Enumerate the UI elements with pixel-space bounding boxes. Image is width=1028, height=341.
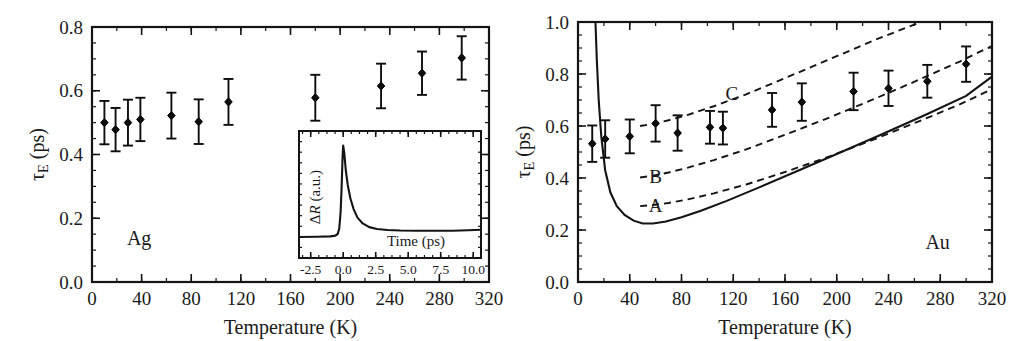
x-tick-label: 240 (874, 288, 903, 309)
data-marker-core (769, 107, 774, 112)
x-tick-label: 280 (926, 288, 955, 309)
ag-plot-svg: 040801201602002402803200.00.20.40.60.8Te… (0, 0, 514, 341)
series-0 (587, 46, 971, 161)
data-marker-core (851, 89, 856, 94)
y-tick-label: 0.0 (545, 272, 569, 293)
panel-au: 040801201602002402803200.00.20.40.60.81.… (514, 0, 1028, 341)
x-tick-label: 120 (227, 288, 256, 309)
panel-annotation-Au: Au (925, 231, 949, 253)
model-curve-A (640, 89, 992, 206)
x-tick-label: 40 (132, 288, 151, 309)
x-tick-label: 280 (425, 288, 454, 309)
x-tick-label: 200 (326, 288, 355, 309)
inset-x-axis-title: Time (ps) (387, 233, 445, 250)
y-tick-label: 0.6 (59, 80, 83, 101)
data-marker-core (378, 83, 383, 88)
inset-x-tick-label: 7.5 (432, 262, 449, 277)
data-marker-core (964, 62, 969, 67)
y-tick-label: 1.0 (545, 12, 569, 33)
y-tick-label: 0.8 (545, 64, 569, 85)
data-marker-core (169, 113, 174, 118)
y-tick-label: 0.6 (545, 116, 569, 137)
x-tick-label: 80 (672, 288, 691, 309)
y-tick-label: 0.4 (545, 168, 569, 189)
data-marker-core (707, 125, 712, 130)
y-axis-title: τE (ps) (26, 128, 51, 181)
x-tick-label: 320 (978, 288, 1007, 309)
x-axis-title: Temperature (K) (718, 316, 852, 339)
curve-label-A: A (649, 195, 663, 216)
data-marker-core (313, 95, 318, 100)
y-tick-label: 0.4 (59, 144, 83, 165)
x-tick-label: 0 (573, 288, 583, 309)
inset-x-tick-label: 2.5 (367, 262, 384, 277)
data-marker-core (590, 141, 595, 146)
data-marker-core (459, 55, 464, 60)
y-tick-label: 0.8 (59, 17, 83, 38)
x-tick-label: 40 (620, 288, 639, 309)
au-plot-svg: 040801201602002402803200.00.20.40.60.81.… (514, 0, 1028, 341)
data-marker-core (138, 117, 143, 122)
y-tick-label: 0.2 (545, 220, 569, 241)
curve-label-B: B (649, 166, 662, 187)
data-marker-core (925, 79, 930, 84)
data-marker-core (653, 121, 658, 126)
data-marker-core (419, 71, 424, 76)
data-marker-core (226, 99, 231, 104)
panel-au-axes: 040801201602002402803200.00.20.40.60.81.… (514, 12, 1006, 340)
x-tick-label: 160 (276, 288, 305, 309)
inset-x-tick-label: -2.5 (300, 262, 322, 277)
data-marker-core (113, 127, 118, 132)
panel-ag: 040801201602002402803200.00.20.40.60.8Te… (0, 0, 514, 341)
x-axis-title: Temperature (K) (224, 316, 358, 339)
data-marker-core (799, 99, 804, 104)
data-marker-core (102, 120, 107, 125)
data-marker-core (720, 125, 725, 130)
inset-x-tick-label: 10.0 (461, 262, 485, 277)
inset-x-tick-label: 5.0 (400, 262, 417, 277)
data-marker-core (886, 86, 891, 91)
x-tick-label: 320 (475, 288, 504, 309)
data-marker-core (603, 136, 608, 141)
data-marker-core (196, 119, 201, 124)
model-curve-C (640, 22, 992, 126)
x-tick-label: 80 (182, 288, 201, 309)
x-tick-label: 0 (87, 288, 97, 309)
figure-root: 040801201602002402803200.00.20.40.60.8Te… (0, 0, 1028, 341)
data-marker-core (675, 130, 680, 135)
data-marker-core (125, 120, 130, 125)
x-tick-label: 200 (823, 288, 852, 309)
y-axis-title: τE (ps) (514, 126, 537, 179)
y-tick-label: 0.2 (59, 208, 83, 229)
x-tick-label: 120 (719, 288, 748, 309)
panel-annotation-Ag: Ag (127, 227, 151, 250)
x-tick-label: 160 (771, 288, 800, 309)
inset-y-axis-title: ΔR (a.u.) (307, 170, 324, 224)
y-tick-label: 0.0 (59, 272, 83, 293)
inset-x-tick-label: 0.0 (335, 262, 352, 277)
data-marker-core (627, 134, 632, 139)
inset-transient: -2.50.02.55.07.510.0Time (ps)ΔR (a.u.) (299, 131, 485, 277)
x-tick-label: 240 (376, 288, 405, 309)
curve-label-C: C (726, 83, 739, 104)
